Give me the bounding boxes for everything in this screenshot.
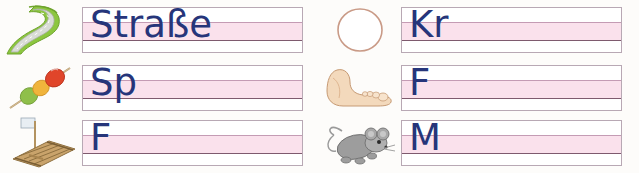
xheight-band xyxy=(402,135,621,153)
maus-picture xyxy=(319,116,401,170)
writing-line-box[interactable]: F xyxy=(82,120,303,166)
spiess-picture xyxy=(0,61,82,115)
worksheet-row: Straße Kr xyxy=(0,2,639,58)
midline xyxy=(83,135,302,136)
baseline xyxy=(83,98,302,99)
fuss-picture xyxy=(319,61,401,115)
worksheet-row: Sp F xyxy=(0,60,639,116)
baseline xyxy=(402,40,621,41)
worksheet-page: Straße Kr xyxy=(0,0,639,173)
baseline xyxy=(402,98,621,99)
worksheet-row: F xyxy=(0,115,639,171)
baseline xyxy=(83,153,302,154)
writing-line-box[interactable]: F xyxy=(401,65,622,111)
writing-line-box[interactable]: Sp xyxy=(82,65,303,111)
kreis-picture xyxy=(319,3,401,57)
worksheet-item-floss: F xyxy=(0,115,319,171)
baseline xyxy=(83,40,302,41)
descender-line xyxy=(402,110,621,111)
writing-line-box[interactable]: Straße xyxy=(82,7,303,53)
xheight-band xyxy=(402,80,621,98)
descender-line xyxy=(83,52,302,53)
xheight-band xyxy=(83,22,302,40)
descender-line xyxy=(83,110,302,111)
worksheet-item-fuss: F xyxy=(319,60,638,116)
midline xyxy=(83,22,302,23)
descender-line xyxy=(402,52,621,53)
midline xyxy=(402,22,621,23)
midline xyxy=(402,80,621,81)
descender-line xyxy=(83,165,302,166)
xheight-band xyxy=(83,135,302,153)
worksheet-item-spiess: Sp xyxy=(0,60,319,116)
xheight-band xyxy=(83,80,302,98)
worksheet-item-strasse: Straße xyxy=(0,2,319,58)
worksheet-item-kreis: Kr xyxy=(319,2,638,58)
writing-line-box[interactable]: Kr xyxy=(401,7,622,53)
xheight-band xyxy=(402,22,621,40)
midline xyxy=(402,135,621,136)
strasse-picture xyxy=(0,3,82,57)
descender-line xyxy=(402,165,621,166)
baseline xyxy=(402,153,621,154)
floss-picture xyxy=(0,116,82,170)
midline xyxy=(83,80,302,81)
worksheet-item-maus: M xyxy=(319,115,638,171)
writing-line-box[interactable]: M xyxy=(401,120,622,166)
